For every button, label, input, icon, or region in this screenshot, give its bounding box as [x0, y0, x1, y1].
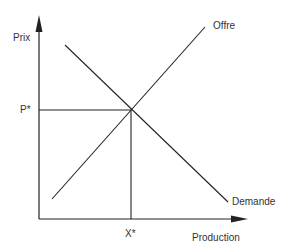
- diagram-canvas: [0, 0, 293, 251]
- y-axis-arrow-icon: [36, 15, 43, 32]
- equilibrium-quantity-label: X*: [125, 228, 136, 239]
- y-axis-label: Prix: [13, 32, 30, 43]
- equilibrium-price-label: P*: [20, 104, 31, 115]
- demand-curve: [65, 45, 228, 202]
- supply-label: Offre: [213, 20, 235, 31]
- supply-demand-diagram: Prix Offre P* Demande X* Production: [0, 0, 293, 251]
- demand-label: Demande: [232, 196, 275, 207]
- x-axis-arrow-icon: [231, 216, 248, 223]
- supply-curve: [52, 27, 205, 199]
- x-axis-label: Production: [192, 232, 240, 243]
